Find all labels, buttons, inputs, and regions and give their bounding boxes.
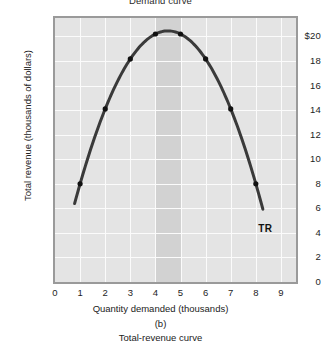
x-tick-label: 7 <box>221 287 241 298</box>
y-tick-label: $20 <box>271 30 321 41</box>
x-tick-label: 8 <box>246 287 266 298</box>
x-tick-label: 6 <box>196 287 216 298</box>
x-tick-label: 3 <box>120 287 140 298</box>
data-point <box>153 31 158 36</box>
x-tick-label: 4 <box>145 287 165 298</box>
x-axis-title: Quantity demanded (thousands) <box>0 303 321 314</box>
y-tick-label: 2 <box>271 251 321 262</box>
x-tick-label: 2 <box>95 287 115 298</box>
data-point <box>78 181 83 186</box>
x-tick-label: 1 <box>70 287 90 298</box>
demand-curve-caption: Demand curve <box>0 0 321 6</box>
y-tick-label: 8 <box>271 178 321 189</box>
figure-caption: Total-revenue curve <box>0 332 321 343</box>
y-tick-label: 16 <box>271 80 321 91</box>
y-tick-label: 18 <box>271 55 321 66</box>
x-tick-label: 5 <box>171 287 191 298</box>
panel-letter: (b) <box>0 318 321 329</box>
y-tick-label: 10 <box>271 153 321 164</box>
data-point <box>103 106 108 111</box>
data-point <box>228 106 233 111</box>
data-point <box>178 31 183 36</box>
chart-plot-inner <box>55 18 296 282</box>
y-tick-label: 14 <box>271 104 321 115</box>
data-point <box>253 181 258 186</box>
y-tick-label: 6 <box>271 202 321 213</box>
y-axis-title: Total revenue (thousands of dollars) <box>22 26 33 226</box>
data-point <box>203 56 208 61</box>
y-tick-label: 0 <box>271 276 321 287</box>
y-tick-label: 4 <box>271 227 321 238</box>
x-tick-label: 9 <box>271 287 291 298</box>
chart-plot-area <box>53 16 298 284</box>
data-point <box>128 56 133 61</box>
x-tick-label: 0 <box>45 287 65 298</box>
curve-data-points <box>78 31 259 186</box>
y-tick-label: 12 <box>271 129 321 140</box>
total-revenue-curve <box>55 18 296 282</box>
